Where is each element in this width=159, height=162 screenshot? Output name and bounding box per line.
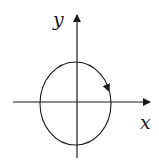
ellipse-curve xyxy=(40,62,111,145)
clockwise-arrow-icon xyxy=(102,78,109,91)
diagram-canvas xyxy=(0,0,159,162)
y-axis-label: y xyxy=(53,10,64,29)
x-axis-label: x xyxy=(140,113,151,132)
